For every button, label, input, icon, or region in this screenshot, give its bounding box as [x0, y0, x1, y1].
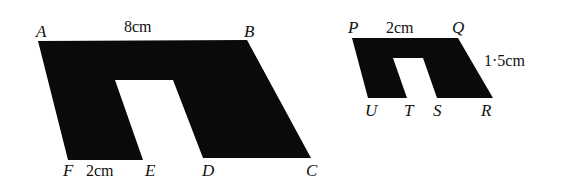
vertex-label-r: R: [480, 101, 492, 120]
vertex-label-b: B: [244, 22, 255, 41]
dimension-top-small: 2cm: [386, 19, 414, 36]
vertex-label-p: P: [347, 18, 358, 37]
similar-shapes-diagram: A 8cm B C D E F 2cm P 2cm Q 1·5cm U T S …: [0, 0, 562, 182]
vertex-label-f: F: [62, 161, 74, 180]
large-shape: [38, 40, 311, 160]
vertex-label-e: E: [144, 161, 156, 180]
vertex-label-u: U: [365, 101, 379, 120]
vertex-label-a: A: [35, 22, 47, 41]
vertex-label-t: T: [404, 101, 415, 120]
vertex-label-d: D: [201, 161, 215, 180]
dimension-bottom-large: 2cm: [86, 162, 114, 179]
vertex-label-s: S: [433, 101, 442, 120]
small-shape: [352, 38, 493, 98]
dimension-side-small: 1·5cm: [484, 52, 525, 69]
vertex-label-c: C: [306, 161, 318, 180]
dimension-top-large: 8cm: [124, 18, 152, 35]
vertex-label-q: Q: [452, 18, 464, 37]
